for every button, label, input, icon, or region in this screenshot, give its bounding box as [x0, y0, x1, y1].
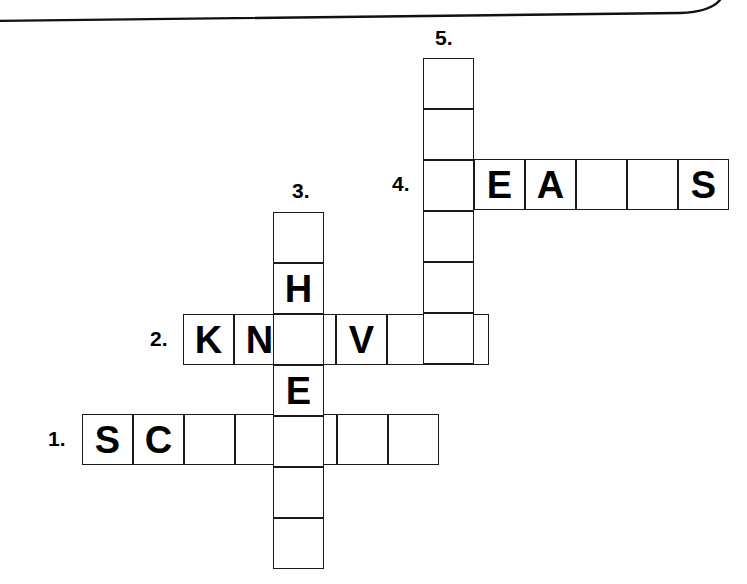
clue-number-2: 2.: [150, 328, 168, 349]
crossword-cell[interactable]: [423, 109, 474, 160]
crossword-cell[interactable]: S: [678, 159, 729, 210]
crossword-cell[interactable]: [184, 414, 235, 465]
crossword-cell[interactable]: [423, 211, 474, 262]
clue-number-5: 5.: [435, 27, 453, 48]
crossword-cell[interactable]: [273, 467, 324, 518]
page-edge-decoration: [0, 0, 747, 40]
crossword-cell[interactable]: [337, 414, 388, 465]
crossword-cell[interactable]: E: [273, 365, 324, 416]
crossword-cell[interactable]: [627, 159, 678, 210]
crossword-cell[interactable]: H: [273, 263, 324, 314]
crossword-puzzle: SCKNVHEEAS 1.2.3.4.5.: [0, 0, 747, 584]
crossword-cell[interactable]: [273, 416, 324, 467]
clue-number-3: 3.: [292, 180, 310, 201]
crossword-cell[interactable]: A: [525, 159, 576, 210]
crossword-cell[interactable]: [576, 159, 627, 210]
crossword-cell[interactable]: S: [82, 414, 133, 465]
crossword-cell[interactable]: C: [133, 414, 184, 465]
clue-number-1: 1.: [48, 428, 66, 449]
crossword-cell[interactable]: [423, 160, 474, 211]
crossword-cell[interactable]: V: [336, 314, 387, 365]
crossword-cell[interactable]: [423, 58, 474, 109]
crossword-cell[interactable]: [423, 262, 474, 313]
crossword-cell[interactable]: [273, 518, 324, 569]
crossword-cell[interactable]: E: [474, 159, 525, 210]
clue-number-4: 4.: [392, 173, 410, 194]
crossword-cell[interactable]: [273, 212, 324, 263]
crossword-cell[interactable]: [273, 314, 324, 365]
crossword-cell[interactable]: K: [183, 314, 234, 365]
crossword-cell[interactable]: [423, 313, 474, 364]
crossword-cell[interactable]: [388, 414, 439, 465]
